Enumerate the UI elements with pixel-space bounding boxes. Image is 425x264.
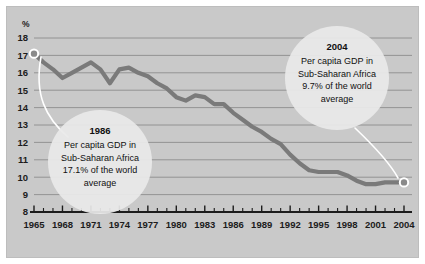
chart-plot-area: 18171615141312111098 % 19651968197119741… — [0, 0, 425, 264]
x-tick-label-1980: 1980 — [166, 219, 187, 230]
x-tick-label-2004: 2004 — [393, 219, 415, 230]
y-tick-label-18: 18 — [17, 32, 28, 43]
y-tick-label-17: 17 — [17, 50, 28, 61]
callout-line-left-callout-3: average — [84, 178, 117, 188]
callout-line-left-callout-1: Sub-Saharan Africa — [61, 153, 139, 163]
y-axis-unit-label: % — [22, 19, 30, 29]
x-tick-label-1989: 1989 — [251, 219, 272, 230]
endpoint-marker-2004 — [400, 178, 408, 186]
line-chart: 18171615141312111098 % 19651968197119741… — [0, 0, 425, 264]
x-tick-label-1965: 1965 — [23, 219, 45, 230]
endpoint-marker-1965 — [30, 49, 38, 57]
callout-line-right-callout-0: Per capita GDP in — [301, 56, 373, 66]
x-tick-label-1977: 1977 — [137, 219, 158, 230]
annotations-group: 1986Per capita GDP inSub-Saharan Africa1… — [30, 26, 408, 214]
callout-line-right-callout-2: 9.7% of the world — [302, 81, 372, 91]
callout-line-left-callout-2: 17.1% of the world — [63, 165, 138, 175]
y-tick-label-12: 12 — [17, 137, 28, 148]
callout-line-right-callout-3: average — [321, 94, 354, 104]
y-tick-label-10: 10 — [17, 172, 28, 183]
callout-title-left-callout: 1986 — [89, 125, 110, 136]
x-tick-label-1986: 1986 — [223, 219, 244, 230]
x-tick-label-1983: 1983 — [194, 219, 215, 230]
x-axis-tick-labels: 1965196819711974197719801983198619891992… — [23, 219, 415, 230]
callout-line-left-callout-0: Per capita GDP in — [64, 140, 136, 150]
x-tick-label-1974: 1974 — [109, 219, 131, 230]
y-tick-label-11: 11 — [18, 154, 29, 165]
annotation-left-callout: 1986Per capita GDP inSub-Saharan Africa1… — [39, 57, 152, 214]
x-tick-label-1992: 1992 — [280, 219, 301, 230]
annotation-right-callout: 2004Per capita GDP inSub-Saharan Africa9… — [285, 26, 398, 178]
y-tick-label-16: 16 — [17, 67, 28, 78]
leader-line-right-callout — [355, 128, 398, 178]
callout-line-right-callout-1: Sub-Saharan Africa — [298, 69, 376, 79]
x-tick-label-1971: 1971 — [80, 219, 102, 230]
y-axis-tick-labels: 18171615141312111098 — [17, 32, 28, 217]
x-tick-label-2001: 2001 — [365, 219, 387, 230]
chart-screenshot: 18171615141312111098 % 19651968197119741… — [0, 0, 425, 264]
y-tick-label-8: 8 — [23, 206, 28, 217]
callout-title-right-callout: 2004 — [326, 41, 348, 52]
y-tick-label-15: 15 — [17, 85, 28, 96]
y-tick-label-14: 14 — [17, 102, 28, 113]
x-tick-label-1968: 1968 — [52, 219, 73, 230]
y-tick-label-13: 13 — [17, 119, 28, 130]
x-tick-label-1995: 1995 — [308, 219, 330, 230]
y-tick-label-9: 9 — [23, 189, 28, 200]
x-tick-label-1998: 1998 — [337, 219, 358, 230]
